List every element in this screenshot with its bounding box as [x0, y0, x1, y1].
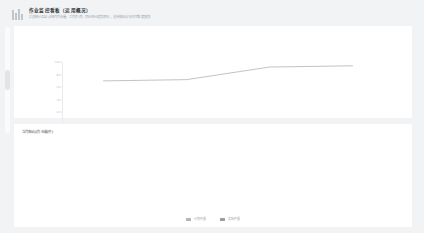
- header-text: 作业监控看板（运用概况） 汇总统计各站点每月作业量、工作负荷、同比环比趋势情况，…: [29, 8, 150, 20]
- scrollbar-thumb[interactable]: [5, 70, 10, 90]
- legend-label: 实际件量: [228, 217, 240, 221]
- line-chart-y-tick-mark: [60, 87, 62, 88]
- bar-chart-legend: 计划件量实际件量: [14, 217, 412, 221]
- line-chart-card: 0204060801002020-112020-122021-012021-02: [14, 26, 412, 118]
- line-chart-y-tick-mark: [60, 74, 62, 75]
- bar-chart-card: 当月各站点作业量(件) 01002003004005006002020-1120…: [14, 124, 412, 227]
- line-chart-y-tick-mark: [60, 99, 62, 100]
- legend-item[interactable]: 实际件量: [220, 217, 240, 221]
- page-title: 作业监控看板（运用概况）: [29, 8, 150, 14]
- line-chart-y-tick-mark: [60, 62, 62, 63]
- legend-swatch-icon: [186, 218, 191, 221]
- dashboard-page: 作业监控看板（运用概况） 汇总统计各站点每月作业量、工作负荷、同比环比趋势情况，…: [0, 0, 424, 233]
- line-chart-y-tick-mark: [60, 112, 62, 113]
- bar-chart-title: 当月各站点作业量(件): [22, 129, 53, 134]
- bar-chart-logo-icon: [12, 9, 25, 21]
- line-chart-plot: 0204060801002020-112020-122021-012021-02: [62, 62, 394, 125]
- legend-item[interactable]: 计划件量: [186, 217, 206, 221]
- legend-label: 计划件量: [194, 217, 206, 221]
- page-header: 作业监控看板（运用概况） 汇总统计各站点每月作业量、工作负荷、同比环比趋势情况，…: [12, 8, 312, 24]
- line-chart-series: [62, 62, 394, 125]
- page-subtitle: 汇总统计各站点每月作业量、工作负荷、同比环比趋势情况，支持按站点与时间维度查询: [29, 15, 150, 20]
- legend-swatch-icon: [220, 218, 225, 221]
- vertical-scrollbar[interactable]: [5, 27, 10, 133]
